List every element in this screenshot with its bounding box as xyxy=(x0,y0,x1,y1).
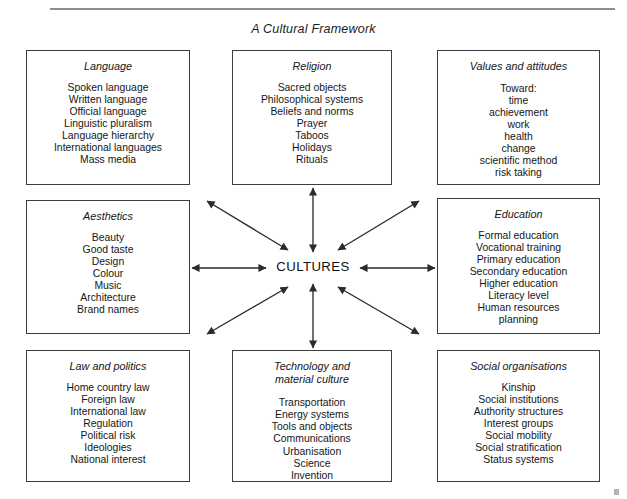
box-law-and-politics: Law and politics Home country lawForeign… xyxy=(26,350,190,482)
box-item: Mass media xyxy=(27,154,189,166)
box-item: Transportation xyxy=(233,397,391,409)
box-social-organisations: Social organisations KinshipSocial insti… xyxy=(437,350,600,482)
box-item: change xyxy=(438,143,599,155)
box-item: Kinship xyxy=(438,382,599,394)
arrow-centre-to-values xyxy=(338,201,419,250)
box-item: Social institutions xyxy=(438,394,599,406)
box-item: Language hierarchy xyxy=(27,130,189,142)
box-item: Beauty xyxy=(27,232,189,244)
arrow-centre-to-language xyxy=(207,201,288,250)
box-item: Energy systems xyxy=(233,409,391,421)
box-item: Rituals xyxy=(233,154,391,166)
page-scan-mark xyxy=(614,489,619,495)
box-item: Status systems xyxy=(438,454,599,466)
box-social-title: Social organisations xyxy=(438,360,599,373)
box-education: Education Formal educationVocational tra… xyxy=(437,198,600,334)
box-item: Home country law xyxy=(27,382,189,394)
arrow-centre-to-social xyxy=(338,287,419,334)
box-item: Beliefs and norms xyxy=(233,106,391,118)
box-aesthetics-items: BeautyGood tasteDesignColourMusicArchite… xyxy=(27,232,189,317)
box-education-items: Formal educationVocational trainingPrima… xyxy=(438,230,599,327)
figure-title: A Cultural Framework xyxy=(0,22,627,36)
box-item: Prayer xyxy=(233,118,391,130)
box-item: Regulation xyxy=(27,418,189,430)
box-item: planning xyxy=(438,314,599,326)
box-item: Ideologies xyxy=(27,442,189,454)
box-education-title: Education xyxy=(438,208,599,221)
box-item: Colour xyxy=(27,268,189,280)
box-item: Tools and objects xyxy=(233,421,391,433)
box-religion: Religion Sacred objectsPhilosophical sys… xyxy=(232,50,392,185)
box-item: Linguistic pluralism xyxy=(27,118,189,130)
arrow-centre-to-law xyxy=(207,287,288,334)
box-item: scientific method xyxy=(438,155,599,167)
box-item: achievement xyxy=(438,107,599,119)
centre-node-cultures: CULTURES xyxy=(263,259,363,274)
box-law-items: Home country lawForeign lawInternational… xyxy=(27,382,189,467)
box-item: Authority structures xyxy=(438,406,599,418)
box-values-items: Toward:timeachievementworkhealthchangesc… xyxy=(438,83,599,180)
box-item: work xyxy=(438,119,599,131)
box-technology-items: TransportationEnergy systemsTools and ob… xyxy=(233,397,391,482)
box-item: Architecture xyxy=(27,292,189,304)
box-aesthetics-title: Aesthetics xyxy=(27,210,189,223)
cultural-framework-figure: A Cultural Framework CULTURES Language S… xyxy=(0,0,627,499)
box-item: Foreign law xyxy=(27,394,189,406)
box-item: Formal education xyxy=(438,230,599,242)
box-values-title: Values and attitudes xyxy=(438,60,599,73)
box-language-items: Spoken languageWritten languageOfficial … xyxy=(27,82,189,167)
box-item: Primary education xyxy=(438,254,599,266)
box-item: Holidays xyxy=(233,142,391,154)
box-social-items: KinshipSocial institutionsAuthority stru… xyxy=(438,382,599,467)
box-item: Social stratification xyxy=(438,442,599,454)
box-item: International languages xyxy=(27,142,189,154)
box-item: Good taste xyxy=(27,244,189,256)
box-item: Urbanisation xyxy=(233,446,391,458)
page-header-rule xyxy=(50,8,615,10)
box-item: Official language xyxy=(27,106,189,118)
box-item: Toward: xyxy=(438,83,599,95)
box-item: International law xyxy=(27,406,189,418)
box-item: Design xyxy=(27,256,189,268)
box-item: Written language xyxy=(27,94,189,106)
box-item: Vocational training xyxy=(438,242,599,254)
box-item: Brand names xyxy=(27,304,189,316)
box-item: Communications xyxy=(233,433,391,445)
box-item: Science xyxy=(233,458,391,470)
box-item: time xyxy=(438,95,599,107)
box-values-and-attitudes: Values and attitudes Toward:timeachievem… xyxy=(437,50,600,185)
box-language-title: Language xyxy=(27,60,189,73)
box-item: Spoken language xyxy=(27,82,189,94)
box-item: Human resources xyxy=(438,302,599,314)
box-item: risk taking xyxy=(438,167,599,179)
box-item: Political risk xyxy=(27,430,189,442)
box-item: Philosophical systems xyxy=(233,94,391,106)
box-aesthetics: Aesthetics BeautyGood tasteDesignColourM… xyxy=(26,200,190,334)
box-religion-items: Sacred objectsPhilosophical systemsBelie… xyxy=(233,82,391,167)
box-law-title: Law and politics xyxy=(27,360,189,373)
box-item: Invention xyxy=(233,470,391,482)
box-item: Interest groups xyxy=(438,418,599,430)
box-religion-title: Religion xyxy=(233,60,391,73)
box-item: Social mobility xyxy=(438,430,599,442)
box-item: Music xyxy=(27,280,189,292)
box-language: Language Spoken languageWritten language… xyxy=(26,50,190,185)
box-technology-and-material-culture: Technology and material culture Transpor… xyxy=(232,350,392,482)
box-item: Sacred objects xyxy=(233,82,391,94)
box-item: Literacy level xyxy=(438,290,599,302)
box-item: Secondary education xyxy=(438,266,599,278)
box-item: National interest xyxy=(27,454,189,466)
box-item: health xyxy=(438,131,599,143)
box-item: Higher education xyxy=(438,278,599,290)
box-item: Taboos xyxy=(233,130,391,142)
box-technology-title: Technology and material culture xyxy=(233,360,391,385)
